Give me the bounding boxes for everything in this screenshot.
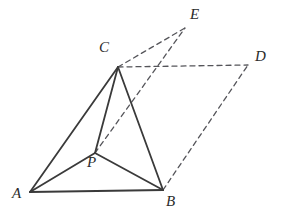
vertex-label-B: B (166, 194, 175, 209)
edge-P-B (95, 153, 163, 190)
edge-C-B (118, 67, 163, 190)
vertex-label-D: D (255, 49, 266, 64)
edge-C-D (118, 65, 248, 67)
geometry-canvas (0, 0, 286, 216)
geometry-figure: A B C P D E (0, 0, 286, 216)
edge-P-C (95, 67, 118, 153)
edge-A-B (30, 190, 163, 192)
vertex-label-P: P (87, 155, 96, 170)
edge-B-D (163, 65, 248, 190)
vertex-label-A: A (12, 186, 21, 201)
vertex-label-E: E (190, 7, 199, 22)
edge-A-C (30, 67, 118, 192)
vertex-label-C: C (99, 40, 109, 55)
edge-C-E (118, 28, 185, 67)
edge-A-P (30, 153, 95, 192)
